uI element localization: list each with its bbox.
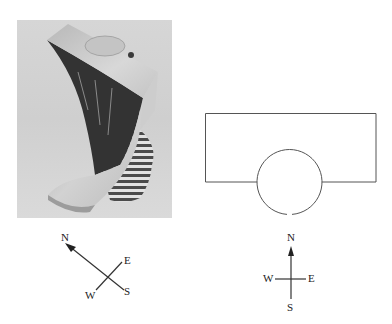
circle-outline	[257, 149, 322, 214]
left-compass-east-label: E	[124, 254, 131, 266]
object-photo	[17, 20, 172, 218]
north-arrow-icon	[288, 246, 294, 256]
rectangle-outline	[206, 114, 377, 183]
left-compass-north-label: N	[61, 231, 69, 243]
top-view-diagram	[206, 114, 377, 215]
right-compass-north-label: N	[287, 231, 295, 243]
left-compass	[65, 243, 124, 290]
left-compass-west-label: W	[85, 289, 95, 301]
right-compass-east-label: E	[308, 272, 315, 284]
right-compass-south-label: S	[287, 301, 293, 313]
left-compass-south-label: S	[124, 285, 130, 297]
top-peg	[85, 36, 125, 56]
right-compass	[275, 246, 306, 299]
right-compass-west-label: W	[263, 272, 273, 284]
figure-canvas	[0, 0, 392, 324]
